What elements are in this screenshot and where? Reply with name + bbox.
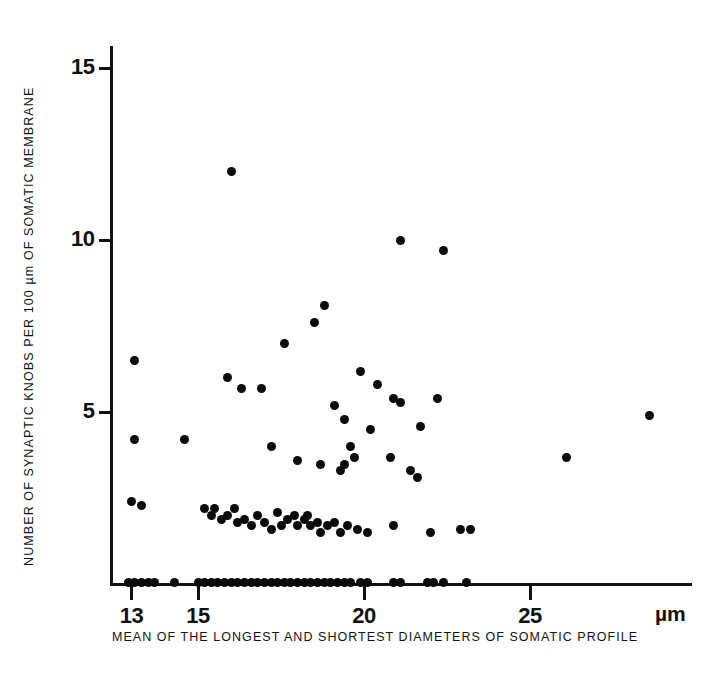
data-point — [396, 398, 405, 407]
data-point — [257, 384, 266, 393]
data-point — [562, 453, 571, 462]
data-point — [645, 411, 654, 420]
data-point — [336, 528, 345, 537]
y-tick-mark — [99, 239, 112, 242]
data-point-layer — [112, 46, 692, 585]
scatter-plot-figure: 51015 13152025 NUMBER OF SYNAPTIC KNOBS … — [0, 0, 725, 675]
data-point — [223, 511, 232, 520]
data-point — [223, 373, 232, 382]
data-point — [313, 518, 322, 527]
data-point — [433, 394, 442, 403]
x-tick-mark — [363, 586, 366, 600]
data-point — [426, 528, 435, 537]
data-point — [320, 301, 329, 310]
data-point — [343, 521, 352, 530]
data-point — [227, 167, 236, 176]
data-point — [413, 473, 422, 482]
data-point — [130, 435, 139, 444]
data-point — [310, 318, 319, 327]
data-point — [137, 501, 146, 510]
data-point — [290, 511, 299, 520]
y-tick-label: 15 — [49, 54, 95, 80]
x-tick-mark — [529, 586, 532, 600]
data-point — [316, 528, 325, 537]
data-point — [350, 453, 359, 462]
data-point — [330, 401, 339, 410]
data-point — [363, 528, 372, 537]
x-tick-label: 13 — [109, 603, 155, 629]
y-axis-title: NUMBER OF SYNAPTIC KNOBS PER 100 µm OF S… — [22, 26, 36, 566]
data-point — [230, 504, 239, 513]
data-point — [247, 521, 256, 530]
data-point — [353, 525, 362, 534]
data-point — [340, 415, 349, 424]
y-tick-mark — [99, 67, 112, 70]
x-tick-label: 20 — [341, 603, 387, 629]
data-point — [386, 453, 395, 462]
data-point — [267, 525, 276, 534]
data-point — [293, 456, 302, 465]
data-point — [267, 442, 276, 451]
x-tick-label: 25 — [507, 603, 553, 629]
y-tick-mark — [99, 411, 112, 414]
data-point — [466, 525, 475, 534]
data-point — [127, 497, 136, 506]
data-point — [346, 442, 355, 451]
x-tick-mark — [130, 586, 133, 600]
data-point — [316, 460, 325, 469]
data-point — [180, 435, 189, 444]
data-point — [273, 508, 282, 517]
x-axis-unit-label: µm — [655, 602, 686, 626]
data-point — [303, 511, 312, 520]
x-tick-label: 15 — [175, 603, 221, 629]
data-point — [389, 521, 398, 530]
data-point — [456, 525, 465, 534]
data-point — [336, 466, 345, 475]
x-axis-title: MEAN OF THE LONGEST AND SHORTEST DIAMETE… — [112, 630, 692, 644]
y-tick-label: 5 — [49, 398, 95, 424]
data-point — [396, 236, 405, 245]
data-point — [356, 367, 365, 376]
x-tick-mark — [197, 586, 200, 600]
data-point — [330, 518, 339, 527]
data-point — [130, 356, 139, 365]
data-point — [210, 504, 219, 513]
data-point — [373, 380, 382, 389]
data-point — [416, 422, 425, 431]
data-point — [237, 384, 246, 393]
y-tick-label: 10 — [49, 226, 95, 252]
data-point — [366, 425, 375, 434]
data-point — [280, 339, 289, 348]
data-point — [439, 246, 448, 255]
